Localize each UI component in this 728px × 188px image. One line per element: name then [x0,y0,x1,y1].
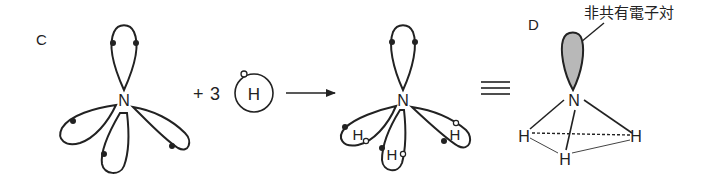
electron-dot [70,118,76,124]
h-electron-dot [400,151,405,156]
hydrogen-symbol: H [353,126,364,143]
nitrogen-symbol: N [568,92,580,109]
orbital-lobe-right [133,107,189,150]
edge-left-front [530,138,558,153]
bond-n-h-right [584,100,632,133]
ammonia-formation-diagram: C N + 3 H H H [0,0,728,188]
h-electron-dot [453,120,458,125]
electron-dot [133,40,139,46]
hydrogen-symbol: H [559,151,571,168]
panel-product: H H H N [341,25,470,170]
nitrogen-symbol: N [118,92,130,109]
nitrogen-symbol: N [397,92,409,109]
coefficient: 3 [210,84,220,104]
edge-back-dashed [532,133,630,135]
electron-dot [342,124,348,130]
electron-dot [101,151,107,157]
hydrogen-electron-dot [241,71,247,77]
electron-dot [441,138,447,144]
panel-d-label: D [528,16,539,33]
panel-d: D 非共有電子対 N H H H [518,4,674,168]
electron-dot [379,145,385,151]
reaction-reactant-h: + 3 H [193,71,335,112]
equivalence-icon [481,82,510,94]
panel-c-label: C [36,31,47,48]
orbital-lobe-top [112,25,137,90]
hydrogen-symbol: H [518,128,530,145]
electron-dot [110,40,116,46]
h-electron-dot [363,138,368,143]
edge-right-front [572,140,630,153]
hydrogen-symbol: H [630,128,642,145]
electron-dot [412,39,418,45]
lone-pair-callout: 非共有電子対 [584,4,674,22]
plus-sign: + [193,84,204,104]
panel-c: C N [36,25,189,173]
lone-pair-lobe [562,33,583,91]
orbital-lobe-top [391,25,415,90]
bond-n-h-front [566,110,575,150]
electron-dot [169,143,175,149]
bond-n-h-left [530,100,564,129]
hydrogen-symbol: H [248,85,260,104]
hydrogen-symbol: H [450,126,461,143]
electron-dot [389,39,395,45]
hydrogen-symbol: H [387,146,398,163]
